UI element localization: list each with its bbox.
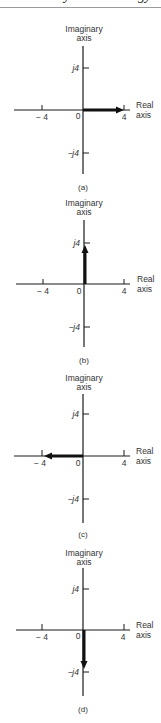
tick-label-pos4: 4 <box>122 112 127 122</box>
real-axis-label: Real <box>137 274 155 284</box>
tick-label-j4: j4 <box>71 63 79 73</box>
tick-label-j4: j4 <box>71 409 79 419</box>
panel-a: Imaginary axis j4 −j4 − 4 0 4 Real axis … <box>0 20 161 194</box>
tick-label-j4: j4 <box>72 238 80 248</box>
panel-c: Imaginary axis j4 −j4 − 4 0 4 Real axis … <box>0 366 161 540</box>
real-axis-label: Real <box>136 100 154 110</box>
panel-b: Imaginary axis j4 −j4 − 4 0 4 Real axis … <box>0 194 161 366</box>
tick-label-neg4: − 4 <box>36 632 48 642</box>
header-fragment-right: gy <box>138 0 151 4</box>
origin-label: 0 <box>76 631 81 641</box>
tick-label-neg-j4: −j4 <box>67 667 79 677</box>
origin-label: 0 <box>77 286 82 296</box>
panel-caption: (a) <box>78 183 88 192</box>
real-axis-label: Real <box>136 620 154 630</box>
origin-label: 0 <box>76 111 81 121</box>
header-fragment-left: y <box>64 0 70 4</box>
imaginary-axis-label-2: axis <box>76 207 91 217</box>
real-axis-label: Real <box>136 446 154 456</box>
complex-plane-c: Imaginary axis j4 −j4 − 4 0 4 Real axis … <box>0 366 161 540</box>
panel-d: Imaginary axis j4 −j4 − 4 0 4 Real axis … <box>0 540 161 723</box>
real-axis-label-2: axis <box>136 630 151 640</box>
tick-label-j4: j4 <box>71 584 79 594</box>
tick-label-neg-j4: −j4 <box>67 494 79 504</box>
imaginary-axis-label-2: axis <box>76 557 91 567</box>
real-axis-label-2: axis <box>136 456 151 466</box>
header-rule <box>0 7 161 8</box>
origin-label: 0 <box>76 458 81 468</box>
tick-label-pos4: 4 <box>122 286 127 296</box>
tick-label-neg-j4: −j4 <box>68 322 80 332</box>
panel-caption: (b) <box>79 356 89 365</box>
tick-label-pos4: 4 <box>121 632 126 642</box>
complex-plane-b: Imaginary axis j4 −j4 − 4 0 4 Real axis … <box>0 194 161 366</box>
complex-plane-d: Imaginary axis j4 −j4 − 4 0 4 Real axis … <box>0 540 161 723</box>
tick-label-neg4: − 4 <box>34 458 46 468</box>
arrowhead-icon <box>81 661 88 669</box>
tick-label-pos4: 4 <box>122 458 127 468</box>
tick-label-neg4: − 4 <box>37 286 49 296</box>
real-axis-label-2: axis <box>136 110 151 120</box>
real-axis-label-2: axis <box>137 284 152 294</box>
running-header: y gy <box>0 0 161 6</box>
arrowhead-icon <box>82 245 89 253</box>
imaginary-axis-label-2: axis <box>76 382 91 392</box>
imaginary-axis-label-2: axis <box>76 33 91 43</box>
tick-label-neg4: − 4 <box>36 112 48 122</box>
complex-plane-a: Imaginary axis j4 −j4 − 4 0 4 Real axis … <box>0 20 161 194</box>
tick-label-neg-j4: −j4 <box>67 148 79 158</box>
panel-caption: (d) <box>78 705 88 714</box>
panel-caption: (c) <box>78 530 88 539</box>
